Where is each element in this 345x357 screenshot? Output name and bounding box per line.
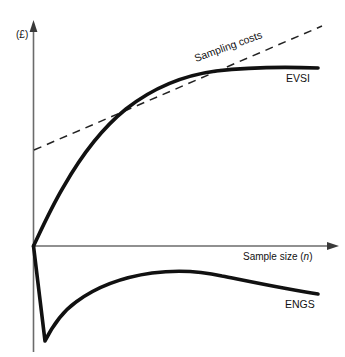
y-axis-arrow-icon (30, 20, 38, 32)
series-label-engs: ENGS (285, 298, 315, 310)
chart-figure: (£) Sample size (n) Sampling costs EVSI … (0, 0, 345, 357)
series-label-sampling-costs: Sampling costs (193, 28, 264, 64)
y-axis-label: (£) (16, 29, 28, 40)
series-label-evsi: EVSI (286, 72, 310, 84)
chart-canvas: (£) Sample size (n) Sampling costs EVSI … (0, 0, 345, 357)
y-axis (30, 20, 38, 352)
x-axis (34, 242, 340, 250)
series-evsi-curve (34, 67, 319, 246)
x-axis-label: Sample size (n) (243, 251, 312, 262)
x-axis-label-suffix: ) (309, 251, 312, 262)
series-sampling-costs-line (34, 26, 322, 150)
x-axis-label-prefix: Sample size ( (243, 251, 304, 262)
x-axis-arrow-icon (327, 242, 339, 250)
